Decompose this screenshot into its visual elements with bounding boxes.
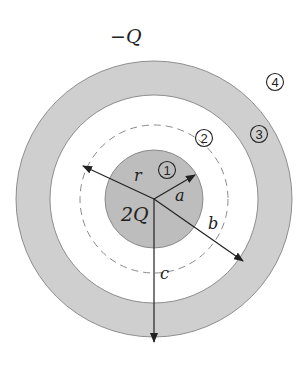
svg-text:4: 4 <box>271 75 278 90</box>
radius-b-label: b <box>208 214 218 233</box>
radius-a-label: a <box>175 186 185 205</box>
svg-text:2: 2 <box>200 131 207 146</box>
radius-r-label: r <box>134 166 143 185</box>
svg-text:1: 1 <box>163 163 170 178</box>
core-charge-label: 2Q <box>120 203 149 225</box>
concentric-spheres-diagram: −Q 2Q r a b c 1 2 3 4 <box>0 0 307 369</box>
svg-text:3: 3 <box>255 127 262 142</box>
diagram-canvas: −Q 2Q r a b c 1 2 3 4 <box>0 0 307 369</box>
radius-c-label: c <box>160 264 169 283</box>
shell-charge-label: −Q <box>110 25 142 47</box>
region-4-marker: 4 <box>267 74 284 91</box>
